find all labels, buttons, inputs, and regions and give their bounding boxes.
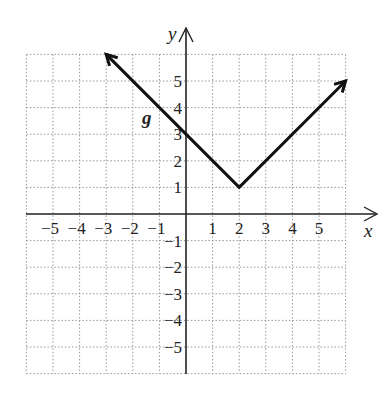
- x-tick-label: −4: [68, 219, 87, 238]
- x-tick-label: −3: [94, 219, 112, 238]
- function-label: g: [141, 107, 152, 128]
- axes: x y: [26, 23, 377, 374]
- y-tick-label: −5: [164, 338, 182, 357]
- function-g: g: [106, 54, 345, 187]
- y-tick-label: −2: [164, 258, 182, 277]
- y-tick-label: −4: [164, 311, 183, 330]
- y-tick-label: 2: [174, 152, 183, 171]
- x-tick-label: 4: [288, 219, 297, 238]
- y-tick-label: 5: [174, 72, 183, 91]
- y-tick-label: 4: [174, 99, 183, 118]
- coordinate-plane: x y −5−4−3−2−11234554321−1−2−3−4−5 g: [0, 0, 391, 396]
- y-tick-label: −1: [164, 232, 182, 251]
- x-tick-label: 1: [208, 219, 217, 238]
- x-tick-label: −1: [147, 219, 165, 238]
- x-tick-label: −2: [121, 219, 139, 238]
- x-tick-label: 2: [235, 219, 244, 238]
- y-tick-label: −3: [164, 285, 182, 304]
- y-axis-label: y: [166, 23, 177, 44]
- x-tick-label: −5: [41, 219, 59, 238]
- x-axis-label: x: [363, 220, 373, 241]
- x-tick-label: 3: [262, 219, 271, 238]
- x-tick-label: 5: [315, 219, 324, 238]
- y-tick-label: 1: [174, 178, 183, 197]
